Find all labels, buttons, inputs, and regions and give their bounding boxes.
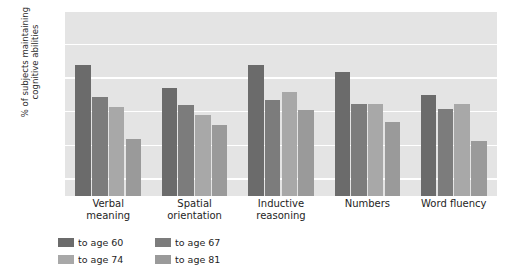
bar-group <box>238 11 324 196</box>
bar <box>471 141 487 197</box>
legend-label: to age 74 <box>78 255 123 265</box>
legend-label: to age 81 <box>175 255 220 265</box>
legend-swatch <box>155 238 171 247</box>
legend-swatch <box>58 238 74 247</box>
x-axis-category-label: Inductive reasoning <box>238 198 324 221</box>
bar <box>298 110 314 196</box>
x-axis-category-label: Verbal meaning <box>65 198 151 221</box>
bar <box>126 139 142 196</box>
bar <box>248 65 264 196</box>
legend-swatch <box>155 255 171 264</box>
bar <box>162 88 178 196</box>
legend-label: to age 67 <box>175 238 220 248</box>
bars-layer <box>65 11 497 196</box>
bar-group <box>411 11 497 196</box>
bar <box>421 95 437 196</box>
bar <box>385 122 401 196</box>
x-axis-category-label: Spatial orientation <box>151 198 237 221</box>
x-axis-category-label: Word fluency <box>411 198 497 210</box>
legend-item: to age 67 <box>155 234 252 251</box>
y-axis-title: % of subjects maintainingcognitive abili… <box>20 0 40 152</box>
x-axis-category-label: Numbers <box>324 198 410 210</box>
legend-item: to age 74 <box>58 251 155 268</box>
legend-item: to age 60 <box>58 234 155 251</box>
bar <box>438 109 454 196</box>
bar <box>195 115 211 196</box>
bar <box>265 100 281 196</box>
bar <box>454 104 470 197</box>
bar <box>109 107 125 196</box>
bar <box>351 104 367 197</box>
plot-area: 5060708090100 <box>65 11 497 196</box>
bar <box>75 65 91 196</box>
legend: to age 60to age 67to age 74to age 81 <box>58 234 278 268</box>
bar <box>92 97 108 196</box>
legend-item: to age 81 <box>155 251 252 268</box>
x-axis-category-labels: Verbal meaningSpatial orientationInducti… <box>65 198 497 230</box>
bar-group <box>65 11 151 196</box>
bar <box>212 125 228 196</box>
y-axis-title-line1: % of subjects maintaining <box>20 7 30 117</box>
bar <box>335 72 351 196</box>
bar <box>178 105 194 196</box>
legend-swatch <box>58 255 74 264</box>
bar <box>282 92 298 196</box>
grouped-bar-chart: % of subjects maintainingcognitive abili… <box>0 0 509 276</box>
bar <box>368 104 384 197</box>
legend-label: to age 60 <box>78 238 123 248</box>
y-axis-title-line2: cognitive abilities <box>30 7 40 117</box>
bar-group <box>151 11 237 196</box>
bar-group <box>324 11 410 196</box>
